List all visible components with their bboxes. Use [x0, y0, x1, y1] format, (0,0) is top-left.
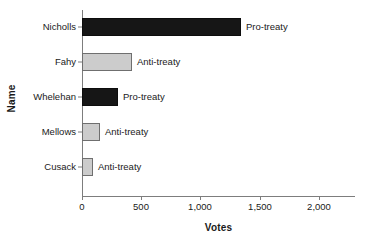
bar-value-label: Anti-treaty — [105, 127, 148, 137]
bar-whelehan — [82, 88, 118, 106]
bar-value-label: Pro-treaty — [246, 22, 288, 32]
y-tick-label: Fahy — [55, 57, 76, 67]
x-tick-mark — [319, 196, 320, 200]
x-tick-label: 1,000 — [188, 202, 212, 212]
bar-value-label: Anti-treaty — [137, 57, 180, 67]
x-axis-title: Votes — [82, 222, 355, 233]
y-tick-label: Mellows — [42, 127, 76, 137]
bar-cusack — [82, 158, 93, 176]
y-tick-label: Whelehan — [33, 92, 76, 102]
x-tick-label: 1,500 — [248, 202, 272, 212]
bar-value-label: Pro-treaty — [123, 92, 165, 102]
y-axis-title: Name — [2, 0, 20, 196]
x-tick-label: 0 — [79, 202, 84, 212]
x-tick-label: 500 — [133, 202, 149, 212]
x-tick-label: 2,000 — [307, 202, 331, 212]
x-tick-mark — [141, 196, 142, 200]
y-tick-label: Nicholls — [43, 22, 76, 32]
bar-fahy — [82, 53, 132, 71]
bar-chart: Name Nicholls Pro-treaty Fahy Anti-treat… — [0, 0, 382, 242]
y-tick-label: Cusack — [44, 162, 76, 172]
plot-area: Nicholls Pro-treaty Fahy Anti-treaty Whe… — [82, 10, 355, 196]
bar-value-label: Anti-treaty — [98, 162, 141, 172]
x-tick-mark — [82, 196, 83, 200]
x-tick-mark — [260, 196, 261, 200]
y-axis-title-text: Name — [6, 84, 17, 112]
x-tick-mark — [200, 196, 201, 200]
x-axis-line — [82, 196, 355, 197]
bar-nicholls — [82, 18, 241, 36]
bar-mellows — [82, 123, 100, 141]
